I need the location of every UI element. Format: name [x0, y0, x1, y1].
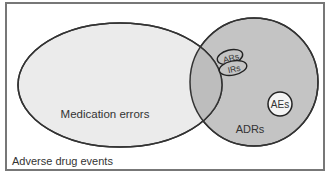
- aes-label: AEs: [271, 99, 289, 110]
- adrs-label: ADRs: [236, 123, 265, 135]
- venn-diagram: Medication errors ADRs ARs IRs AEs Adver…: [0, 0, 329, 175]
- medication-errors-label: Medication errors: [61, 108, 150, 120]
- adverse-drug-events-label: Adverse drug events: [12, 155, 113, 167]
